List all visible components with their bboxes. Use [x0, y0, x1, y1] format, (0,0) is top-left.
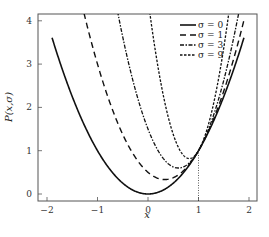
y-tick-label: 3: [26, 59, 32, 69]
y-axis-label: P(x,σ): [3, 92, 14, 123]
curve-sigma-0: [52, 38, 244, 194]
x-axis-label: x: [144, 209, 150, 220]
chart: −2−101201234 x P(x,σ) σ = 0 σ = 1 σ = 3 …: [0, 0, 269, 237]
legend-label-sigma3: σ = 3: [198, 40, 223, 50]
plot-frame: [38, 14, 257, 201]
legend-label-sigma0: σ = 0: [198, 20, 223, 30]
legend: σ = 0 σ = 1 σ = 3 σ = 9: [180, 20, 223, 60]
x-tick-label: −2: [40, 205, 53, 215]
x-tick-label: 1: [196, 205, 202, 215]
y-tick-label: 2: [26, 102, 32, 112]
legend-label-sigma1: σ = 1: [198, 30, 223, 40]
y-tick-label: 1: [26, 146, 32, 156]
y-tick-label: 4: [26, 16, 32, 26]
legend-label-sigma9: σ = 9: [198, 50, 223, 60]
x-tick-label: −1: [91, 205, 104, 215]
y-tick-label: 0: [26, 189, 32, 199]
x-tick-label: 2: [246, 205, 252, 215]
